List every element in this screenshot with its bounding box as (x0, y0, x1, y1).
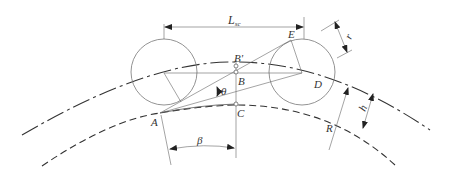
geometry-diagram: Lsc E B' B D θ A C β R h r (0, 0, 465, 176)
point-B (234, 70, 238, 74)
line-AE (160, 40, 291, 113)
line-AD (160, 73, 302, 113)
label-A: A (150, 116, 158, 128)
label-C: C (237, 107, 245, 119)
label-Lsc: Lsc (227, 13, 241, 28)
right-wheel (269, 39, 335, 105)
theta-arc (217, 87, 218, 96)
radial-line-A (161, 115, 171, 165)
inner-track-arc (42, 105, 395, 166)
label-E: E (287, 28, 295, 40)
label-R: R (325, 122, 333, 134)
label-h: h (356, 102, 369, 113)
left-wheel-radius (164, 73, 181, 102)
chord-AC (160, 104, 236, 113)
label-D: D (313, 78, 322, 90)
beta-dimension-arc (170, 146, 234, 149)
label-B-prime: B' (234, 52, 244, 64)
R-radius-line (329, 88, 348, 150)
point-C (234, 102, 238, 106)
label-theta: θ (221, 85, 227, 97)
label-B: B (238, 75, 245, 87)
label-beta: β (196, 134, 203, 146)
label-r: r (342, 31, 355, 41)
point-B-prime (234, 64, 238, 68)
r-extension-2 (337, 50, 352, 58)
